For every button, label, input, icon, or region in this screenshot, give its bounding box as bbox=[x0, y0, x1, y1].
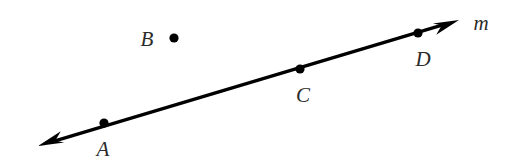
geometry-diagram: A B C D m bbox=[0, 0, 515, 167]
line-diagram-canvas bbox=[0, 0, 515, 167]
line-label-m: m bbox=[473, 13, 488, 34]
line-m bbox=[52, 24, 446, 142]
point-dot-b bbox=[169, 33, 178, 42]
point-label-a: A bbox=[97, 139, 110, 160]
point-label-d: D bbox=[415, 49, 430, 70]
point-dot-d bbox=[413, 28, 422, 37]
point-dot-c bbox=[295, 64, 304, 73]
point-label-b: B bbox=[141, 29, 154, 50]
point-label-c: C bbox=[296, 85, 310, 106]
point-dot-a bbox=[99, 118, 108, 127]
